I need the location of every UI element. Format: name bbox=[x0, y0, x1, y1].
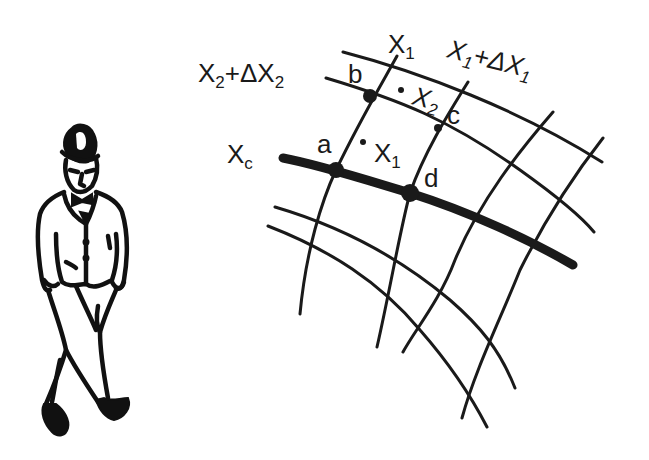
left-shoe-icon bbox=[42, 404, 68, 435]
cell-x2-marker bbox=[398, 87, 404, 93]
label-xc: Xc bbox=[227, 139, 253, 173]
label-b: b bbox=[348, 59, 362, 89]
point-b-dot bbox=[363, 89, 377, 103]
label-a: a bbox=[317, 129, 332, 159]
label-x1-plus-dx1: X1+ΔX1 bbox=[443, 33, 536, 87]
cell-x1-marker bbox=[360, 139, 366, 145]
coordinate-grid-diagram: X1 X1+ΔX1 X2+ΔX2 Xc b c a d X1 X2 bbox=[0, 0, 649, 460]
right-shoe-icon bbox=[96, 398, 129, 420]
label-d: d bbox=[424, 163, 438, 193]
arc-lower-1 bbox=[275, 207, 515, 388]
point-d-dot bbox=[401, 184, 419, 202]
point-a-dot bbox=[328, 162, 344, 178]
label-x2-plus-dx2: X2+ΔX2 bbox=[198, 58, 284, 92]
diagram-canvas: X1 X1+ΔX1 X2+ΔX2 Xc b c a d X1 X2 bbox=[0, 0, 649, 460]
arc-lower-2 bbox=[268, 226, 487, 427]
point-c-dot bbox=[434, 124, 442, 132]
label-cell-x1: X1 bbox=[374, 138, 401, 172]
curve-x1-3 bbox=[403, 112, 553, 352]
label-c: c bbox=[447, 100, 460, 130]
label-x1: X1 bbox=[388, 29, 415, 63]
label-cell-x2: X2 bbox=[408, 80, 444, 120]
walking-man-figure bbox=[38, 125, 129, 436]
